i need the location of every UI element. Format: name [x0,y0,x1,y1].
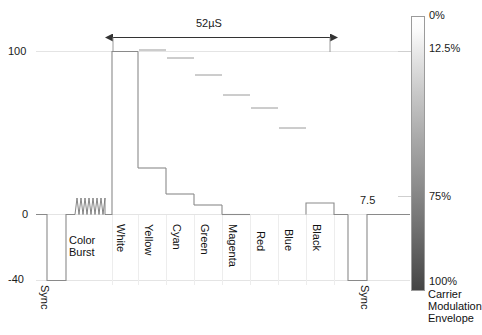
envelope-tick-leaders [398,52,411,197]
y-tick-0: 0 [22,208,28,220]
segment-label-sync-right: Sync [359,285,371,309]
segment-label-black: Black [311,224,323,251]
bar-yellow-carrier [140,50,164,168]
envelope-caption-line3: Envelope [428,312,482,324]
segment-label-white: White [115,224,127,252]
segment-label-sync-left: Sync [39,285,51,309]
segment-label-blue: Blue [283,229,295,251]
color-burst-label-line1: Color [69,234,95,246]
envelope-tick-12-5: 12.5% [429,42,460,54]
color-burst-label-line2: Burst [69,246,95,258]
color-burst-label: Color Burst [69,234,95,258]
dimension-label-52us: 52µS [196,17,222,29]
bar-red-carrier [252,108,276,214]
bar-magenta-carrier [224,95,248,214]
envelope-tick-0: 0% [429,9,445,21]
carrier-modulation-envelope-bar [412,17,425,291]
envelope-caption: Carrier Modulation Envelope [428,288,482,324]
bar-green-carrier [196,75,220,205]
bar-blue-carrier [280,128,304,214]
color-burst-oscillation [75,198,105,215]
carrier-modulation-bars [140,50,304,214]
y-tick-100: 100 [8,45,26,57]
segment-label-yellow: Yellow [143,224,155,255]
envelope-caption-line2: Modulation [428,300,482,312]
envelope-tick-75: 75% [429,190,451,202]
y-tick-minus-40: -40 [8,273,24,285]
segment-label-red: Red [255,231,267,251]
envelope-caption-line1: Carrier [428,288,482,300]
bar-cyan-carrier [168,58,192,194]
envelope-tick-100: 100% [429,275,457,287]
segment-label-cyan: Cyan [171,224,183,250]
segment-label-green: Green [199,224,211,255]
segment-label-magenta: Magenta [227,224,239,267]
setup-level-label: 7.5 [360,194,375,206]
